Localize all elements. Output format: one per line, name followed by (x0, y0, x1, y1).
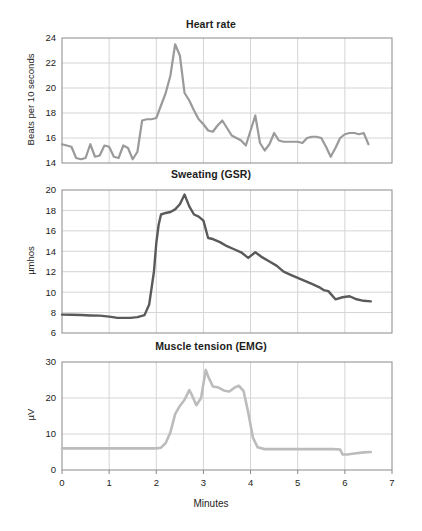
plot-area-muscle-tension-emg: 010203001234567 (0, 340, 422, 500)
svg-text:6: 6 (51, 327, 56, 338)
svg-text:0: 0 (59, 477, 64, 488)
svg-text:4: 4 (248, 477, 253, 488)
svg-text:18: 18 (45, 205, 56, 216)
svg-text:20: 20 (45, 82, 56, 93)
svg-text:14: 14 (45, 246, 56, 257)
svg-text:10: 10 (45, 287, 56, 298)
chart-panel-heart-rate: Heart rate Beats per 10 seconds 14161820… (0, 18, 422, 168)
svg-text:16: 16 (45, 225, 56, 236)
svg-text:22: 22 (45, 57, 56, 68)
biofeedback-figure: Heart rate Beats per 10 seconds 14161820… (0, 0, 422, 531)
svg-text:30: 30 (45, 356, 56, 367)
svg-text:3: 3 (201, 477, 206, 488)
svg-text:7: 7 (389, 477, 394, 488)
svg-text:10: 10 (45, 428, 56, 439)
svg-text:20: 20 (45, 392, 56, 403)
svg-text:0: 0 (51, 464, 56, 475)
svg-text:20: 20 (45, 184, 56, 195)
plot-area-sweating-gsr: 68101214161820 (0, 168, 422, 340)
svg-text:16: 16 (45, 132, 56, 143)
plot-area-heart-rate: 141618202224 (0, 18, 422, 168)
x-axis-label-minutes: Minutes (0, 498, 422, 509)
chart-panel-sweating-gsr: Sweating (GSR) µmhos 68101214161820 (0, 168, 422, 340)
svg-text:5: 5 (295, 477, 300, 488)
svg-text:24: 24 (45, 32, 56, 43)
svg-text:8: 8 (51, 307, 56, 318)
svg-text:6: 6 (342, 477, 347, 488)
svg-text:12: 12 (45, 266, 56, 277)
svg-text:1: 1 (106, 477, 111, 488)
svg-text:18: 18 (45, 107, 56, 118)
svg-text:2: 2 (154, 477, 159, 488)
svg-text:14: 14 (45, 157, 56, 168)
chart-panel-muscle-tension-emg: Muscle tension (EMG) µV 010203001234567 … (0, 340, 422, 531)
